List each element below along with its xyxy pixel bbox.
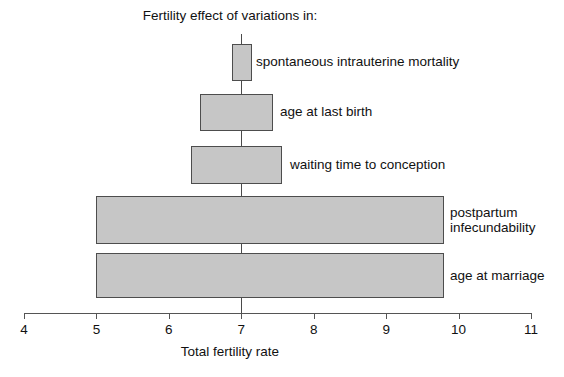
plot-area: spontaneous intrauterine mortalityage at…	[0, 0, 564, 377]
x-tick-label: 11	[516, 322, 546, 337]
x-tick-label: 5	[81, 322, 111, 337]
bar	[191, 146, 282, 184]
x-tick-mark	[169, 313, 170, 319]
x-tick-mark	[241, 313, 242, 319]
x-tick-label: 8	[299, 322, 329, 337]
bar	[200, 94, 273, 131]
x-tick-mark	[386, 313, 387, 319]
bar	[232, 44, 252, 81]
bar	[96, 253, 444, 298]
bar-label: age at last birth	[280, 104, 372, 119]
bar	[96, 196, 444, 244]
x-tick-mark	[531, 313, 532, 319]
x-tick-label: 9	[371, 322, 401, 337]
bar-label: age at marriage	[450, 268, 545, 283]
x-tick-label: 7	[226, 322, 256, 337]
x-axis-title: Total fertility rate	[0, 344, 460, 360]
x-tick-label: 6	[154, 322, 184, 337]
x-tick-label: 4	[9, 322, 39, 337]
x-axis-line	[24, 313, 531, 314]
bar-label: waiting time to conception	[290, 157, 445, 172]
bar-label: postpartum infecundability	[450, 205, 536, 235]
x-tick-label: 10	[444, 322, 474, 337]
x-tick-mark	[24, 313, 25, 319]
fertility-effect-chart: Fertility effect of variations in: spont…	[0, 0, 564, 377]
bar-label: spontaneous intrauterine mortality	[256, 54, 459, 69]
x-tick-mark	[314, 313, 315, 319]
x-tick-mark	[459, 313, 460, 319]
x-tick-mark	[96, 313, 97, 319]
